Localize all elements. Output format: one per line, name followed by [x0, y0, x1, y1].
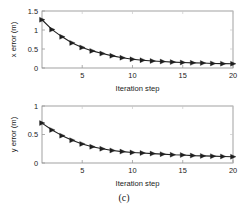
y-tick-label: 0.5 — [28, 130, 38, 139]
y-tick-label: 0 — [34, 159, 38, 168]
x-tick-label: 5 — [80, 71, 84, 80]
x-tick-label: 15 — [179, 71, 187, 80]
x-tick-label: 15 — [179, 166, 187, 175]
y-axis-label: y error (m) — [9, 116, 18, 152]
x-axis-label: Iteration step — [116, 179, 160, 188]
chart-panel-y-error: 510152000.51Iteration stepy error (m) — [0, 95, 248, 190]
y-tick-label: 1 — [34, 102, 38, 111]
y-tick-label: 0.5 — [28, 45, 38, 54]
x-tick-label: 20 — [229, 71, 237, 80]
chart-panel-x-error: 510152000.511.5Iteration stepx error (m) — [0, 0, 248, 95]
y-tick-label: 1 — [34, 26, 38, 35]
y-tick-label: 1.5 — [28, 7, 38, 16]
y-error-plot: 510152000.51Iteration stepy error (m) — [0, 95, 248, 190]
x-tick-label: 20 — [229, 166, 237, 175]
x-tick-label: 10 — [128, 71, 136, 80]
x-error-plot: 510152000.511.5Iteration stepx error (m) — [0, 0, 248, 95]
x-tick-label: 5 — [80, 166, 84, 175]
y-axis-label: x error (m) — [9, 21, 18, 57]
y-tick-label: 0 — [34, 64, 38, 73]
plot-frame — [42, 106, 233, 163]
figure-caption: (c) — [0, 192, 248, 203]
x-tick-label: 10 — [128, 166, 136, 175]
figure-container: 510152000.511.5Iteration stepx error (m)… — [0, 0, 248, 217]
x-axis-label: Iteration step — [116, 84, 160, 93]
